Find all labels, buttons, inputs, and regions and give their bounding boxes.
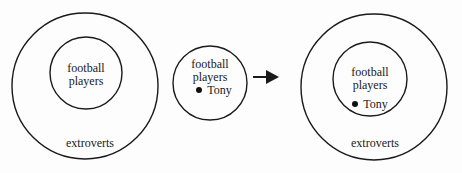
syllogism-diagram: football players extroverts football pla… bbox=[0, 0, 462, 173]
middle-label: football players Tony bbox=[180, 58, 240, 97]
right-outer-label: extroverts bbox=[345, 137, 405, 150]
dot-icon bbox=[352, 101, 358, 107]
left-outer-label: extroverts bbox=[60, 137, 120, 150]
right-inner-label: football players Tony bbox=[340, 66, 400, 111]
dot-icon bbox=[196, 87, 202, 93]
right-arrow-icon bbox=[253, 70, 279, 84]
label-players: players bbox=[56, 75, 116, 88]
left-inner-label: football players bbox=[56, 62, 116, 88]
member-label: Tony bbox=[363, 97, 388, 111]
member-label: Tony bbox=[207, 83, 232, 97]
member-tony: Tony bbox=[340, 98, 400, 111]
label-players: players bbox=[340, 79, 400, 92]
member-tony: Tony bbox=[180, 84, 240, 97]
